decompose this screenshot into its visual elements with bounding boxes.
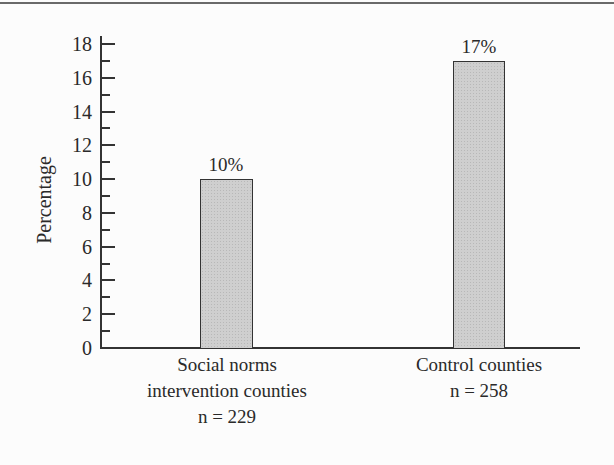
y-tick-label: 12 (62, 135, 92, 155)
y-tick-label: 2 (62, 304, 92, 324)
category-label-social-norms: Social norms intervention counties n = 2… (107, 352, 347, 430)
y-major-tick (101, 144, 115, 146)
bar-value-label-control: 17% (439, 36, 519, 58)
y-tick-label: 16 (62, 68, 92, 88)
y-tick-label: 10 (62, 169, 92, 189)
y-tick-label: 8 (62, 203, 92, 223)
bar-value-label-social-norms: 10% (186, 154, 266, 176)
y-major-tick (101, 279, 115, 281)
category-line: n = 229 (107, 404, 347, 430)
y-major-tick (101, 313, 115, 315)
y-minor-tick (101, 195, 110, 197)
y-major-tick (101, 246, 115, 248)
bar-control (453, 61, 505, 349)
bar-chart: Percentage 024681012141618 10% 17% Socia… (0, 0, 614, 465)
x-axis-line (100, 347, 580, 349)
y-minor-tick (101, 263, 110, 265)
y-major-tick (101, 178, 115, 180)
y-axis-line (100, 36, 102, 349)
y-minor-tick (101, 60, 110, 62)
y-major-tick (101, 43, 115, 45)
y-major-tick (101, 77, 115, 79)
bar-social-norms (200, 179, 253, 349)
y-tick-label: 14 (62, 102, 92, 122)
y-minor-tick (101, 330, 110, 332)
category-line: Social norms (107, 352, 347, 378)
y-tick-label: 0 (62, 338, 92, 358)
y-minor-tick (101, 94, 110, 96)
category-line: n = 258 (359, 378, 599, 404)
y-tick-label: 6 (62, 237, 92, 257)
y-minor-tick (101, 229, 110, 231)
category-line: intervention counties (107, 378, 347, 404)
y-axis-label: Percentage (33, 156, 56, 244)
y-minor-tick (101, 161, 110, 163)
y-tick-label: 4 (62, 270, 92, 290)
category-line: Control counties (359, 352, 599, 378)
y-major-tick (101, 212, 115, 214)
y-major-tick (101, 111, 115, 113)
y-minor-tick (101, 296, 110, 298)
y-tick-label: 18 (62, 34, 92, 54)
category-label-control: Control counties n = 258 (359, 352, 599, 404)
y-minor-tick (101, 127, 110, 129)
